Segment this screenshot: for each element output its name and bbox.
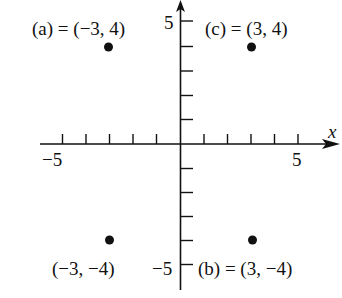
- y-tick-label-5: 5: [164, 13, 174, 32]
- x-tick-label-neg5: −5: [42, 150, 62, 169]
- x-axis-label: x: [328, 122, 336, 141]
- label-point-b: (b) = (3, −4): [198, 259, 292, 278]
- point-d: [105, 236, 114, 245]
- label-point-c: (c) = (3, 4): [205, 19, 287, 38]
- point-b: [248, 236, 257, 245]
- label-point-a: (a) = (−3, 4): [32, 19, 125, 38]
- label-point-d: (−3, −4): [52, 259, 115, 278]
- x-tick-label-5: 5: [292, 150, 302, 169]
- y-tick-label-neg5: −5: [152, 259, 172, 278]
- point-a: [104, 43, 113, 52]
- y-ticks: [180, 21, 193, 265]
- point-c: [247, 43, 256, 52]
